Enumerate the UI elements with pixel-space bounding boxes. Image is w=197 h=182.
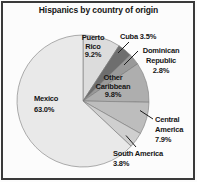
- dominican-republic-label: Dominican Republic 2.8%: [132, 46, 190, 76]
- central-america-label-line: Central: [155, 115, 183, 125]
- south-america-label: South America 3.8%: [113, 149, 163, 168]
- puerto-rico-label: Puerto Rico 9.2%: [72, 34, 114, 60]
- dominican-republic-label-line: Dominican: [132, 46, 190, 56]
- central-america-label-value: 7.9%: [155, 135, 183, 145]
- south-america-label-line: South America: [113, 149, 163, 159]
- pie-chart-figure: Hispanics by country of origin Puerto Ri…: [0, 0, 197, 182]
- cuba-label: Cuba 3.5%: [120, 33, 156, 42]
- mexico-label-value: 63.0%: [34, 104, 58, 115]
- cuba-label-line: Cuba 3.5%: [120, 33, 156, 42]
- other-caribbean-label: Other Caribbean 9.8%: [88, 74, 138, 100]
- puerto-rico-label-value: 9.2%: [72, 51, 114, 60]
- mexico-label-line: Mexico: [34, 93, 58, 104]
- dominican-republic-label-value: 2.8%: [132, 66, 190, 76]
- other-caribbean-label-value: 9.8%: [88, 91, 138, 100]
- dominican-republic-label-line: Republic: [132, 56, 190, 66]
- south-america-label-value: 3.8%: [113, 159, 163, 169]
- chart-title: Hispanics by country of origin: [0, 6, 197, 15]
- central-america-label: Central America 7.9%: [155, 115, 183, 145]
- mexico-label: Mexico 63.0%: [34, 93, 58, 115]
- central-america-label-line: America: [155, 125, 183, 135]
